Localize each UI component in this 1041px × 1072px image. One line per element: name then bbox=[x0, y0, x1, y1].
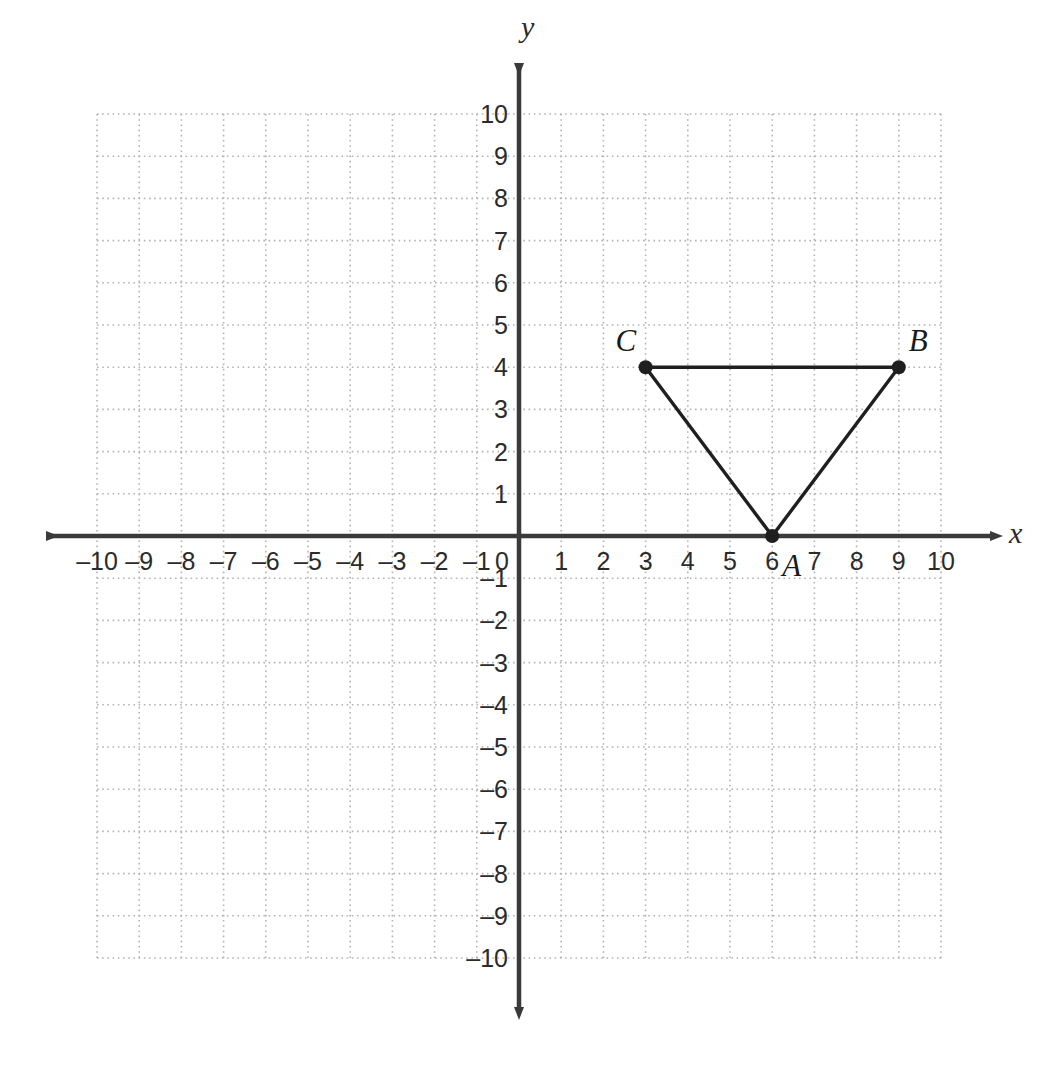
vertex-label-a: A bbox=[782, 550, 801, 581]
y-tick-label: –5 bbox=[480, 735, 508, 760]
y-tick-label: –10 bbox=[466, 946, 508, 971]
x-tick-label: –2 bbox=[421, 549, 449, 574]
x-tick-label: –7 bbox=[210, 549, 238, 574]
x-tick-label: 5 bbox=[723, 549, 737, 574]
y-tick-label: –8 bbox=[480, 861, 508, 886]
x-axis-label: x bbox=[1009, 518, 1022, 548]
y-tick-label: –3 bbox=[480, 650, 508, 675]
y-tick-label: 3 bbox=[494, 397, 508, 422]
x-tick-label: 8 bbox=[850, 549, 864, 574]
x-tick-label: 9 bbox=[892, 549, 906, 574]
y-tick-label: –2 bbox=[480, 608, 508, 633]
x-tick-label: –9 bbox=[125, 549, 153, 574]
x-tick-label: 6 bbox=[765, 549, 779, 574]
x-tick-label: –6 bbox=[252, 549, 280, 574]
plot-canvas bbox=[0, 0, 1041, 1072]
axes bbox=[47, 64, 991, 1008]
x-tick-label: –5 bbox=[294, 549, 322, 574]
x-tick-label: –8 bbox=[167, 549, 195, 574]
y-tick-label: 5 bbox=[494, 313, 508, 338]
y-tick-label: 2 bbox=[494, 439, 508, 464]
y-tick-label: 10 bbox=[480, 102, 508, 127]
coordinate-plane-figure: –10–9–8–7–6–5–4–3–2–11234567891010987654… bbox=[0, 0, 1041, 1072]
y-tick-label: –7 bbox=[480, 819, 508, 844]
x-tick-label: 3 bbox=[639, 549, 653, 574]
y-axis-label: y bbox=[521, 12, 534, 42]
x-tick-label: 7 bbox=[807, 549, 821, 574]
x-tick-label: –3 bbox=[378, 549, 406, 574]
y-tick-label: 4 bbox=[494, 355, 508, 380]
x-tick-label: –4 bbox=[336, 549, 364, 574]
y-tick-label: –4 bbox=[480, 692, 508, 717]
y-tick-label: –9 bbox=[480, 903, 508, 928]
x-tick-label: 1 bbox=[554, 549, 568, 574]
y-tick-label: 8 bbox=[494, 186, 508, 211]
x-tick-label: 10 bbox=[927, 549, 955, 574]
vertex-label-b: B bbox=[909, 325, 928, 356]
y-tick-label: 6 bbox=[494, 270, 508, 295]
x-tick-label: 2 bbox=[596, 549, 610, 574]
origin-label: 0 bbox=[495, 549, 509, 574]
x-tick-label: 4 bbox=[681, 549, 695, 574]
y-tick-label: 7 bbox=[494, 228, 508, 253]
y-tick-label: 1 bbox=[494, 481, 508, 506]
x-tick-label: –10 bbox=[76, 549, 118, 574]
y-tick-label: 9 bbox=[494, 144, 508, 169]
vertex-label-c: C bbox=[616, 325, 637, 356]
y-tick-label: –6 bbox=[480, 777, 508, 802]
